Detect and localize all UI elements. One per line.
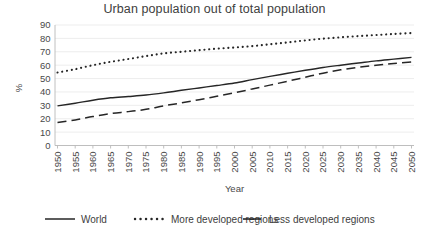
x-tick-label: 1965: [105, 152, 116, 173]
x-tick-label: 1980: [158, 152, 169, 173]
gridlines-group: [55, 25, 414, 146]
legend-label[interactable]: World: [81, 214, 107, 225]
x-tick-label: 2015: [282, 152, 293, 173]
axis-lines-group: [55, 25, 414, 149]
x-tick-label: 1960: [87, 152, 98, 173]
y-tick-label: 70: [40, 46, 51, 57]
x-tick-label: 2005: [247, 152, 258, 173]
x-tick-label: 2040: [371, 152, 382, 173]
y-tick-label: 60: [40, 60, 51, 71]
chart-plot: 0102030405060708090 19501955196019651970…: [0, 0, 429, 234]
legend-label[interactable]: Less developed regions: [269, 214, 375, 225]
x-tick-label: 1995: [211, 152, 222, 173]
x-tick-label: 1955: [70, 152, 81, 173]
x-tick-label: 1990: [194, 152, 205, 173]
x-tick-label: 2030: [335, 152, 346, 173]
chart-container: Urban population out of total population…: [0, 0, 429, 234]
series-line-world: [58, 57, 412, 105]
y-tick-label: 30: [40, 100, 51, 111]
x-tick-label: 2035: [353, 152, 364, 173]
x-tick-label: 1975: [140, 152, 151, 173]
series-line-more-developed-regions: [58, 33, 412, 73]
y-axis-label: %: [13, 83, 24, 92]
legend-label[interactable]: More developed regions: [171, 214, 278, 225]
x-tick-label: 2000: [229, 152, 240, 173]
y-tick-label: 80: [40, 33, 51, 44]
y-tick-label: 20: [40, 113, 51, 124]
y-tick-label: 10: [40, 127, 51, 138]
x-tick-label: 1985: [176, 152, 187, 173]
y-tick-label: 40: [40, 86, 51, 97]
x-tick-label: 2010: [264, 152, 275, 173]
x-tick-label: 2050: [406, 152, 417, 173]
x-tick-label: 2025: [317, 152, 328, 173]
chart-legend: WorldMore developed regionsLess develope…: [45, 214, 375, 225]
x-tick-label: 2045: [388, 152, 399, 173]
x-tick-label: 1950: [52, 152, 63, 173]
x-axis-label: Year: [225, 183, 244, 194]
y-tick-label: 90: [40, 19, 51, 30]
y-axis-tick-labels: 0102030405060708090: [40, 19, 51, 151]
x-tick-label: 2020: [300, 152, 311, 173]
x-tick-label: 1970: [123, 152, 134, 173]
data-series-group: [58, 33, 412, 123]
y-tick-label: 50: [40, 73, 51, 84]
y-tick-label: 0: [45, 140, 50, 151]
x-axis-tick-labels: 1950195519601965197019751980198519901995…: [52, 152, 417, 173]
